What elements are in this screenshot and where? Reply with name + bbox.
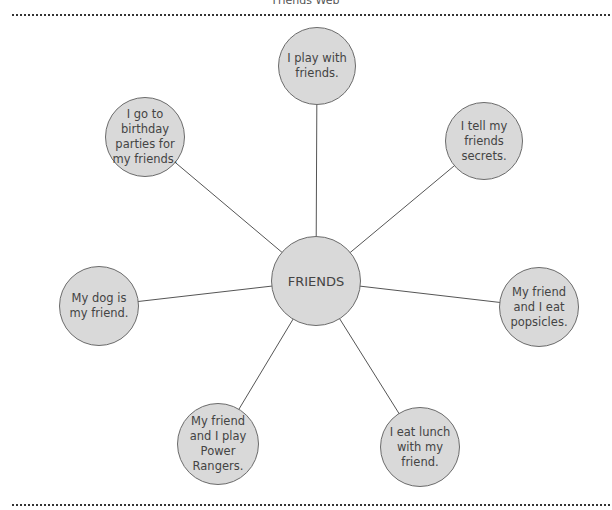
node-label: My friend and I play Power Rangers. <box>184 414 252 474</box>
center-node-label: FRIENDS <box>288 274 345 289</box>
node-label: I tell my friends secrets. <box>452 119 516 164</box>
node-label: I play with friends. <box>285 51 349 81</box>
node-birthday: I go to birthday parties for my friends. <box>105 97 185 177</box>
node-secrets: I tell my friends secrets. <box>445 102 523 180</box>
node-dog: My dog is my friend. <box>59 266 139 346</box>
node-lunch: I eat lunch with my friend. <box>380 407 460 487</box>
node-label: I eat lunch with my friend. <box>387 425 453 470</box>
node-label: My friend and I eat popsicles. <box>506 285 572 330</box>
node-label: I go to birthday parties for my friends. <box>112 107 178 167</box>
node-popsicles: My friend and I eat popsicles. <box>499 267 579 347</box>
node-label: My dog is my friend. <box>66 291 132 321</box>
node-play: I play with friends. <box>278 27 356 105</box>
center-node-friends: FRIENDS <box>271 236 361 326</box>
node-power-rangers: My friend and I play Power Rangers. <box>177 403 259 485</box>
